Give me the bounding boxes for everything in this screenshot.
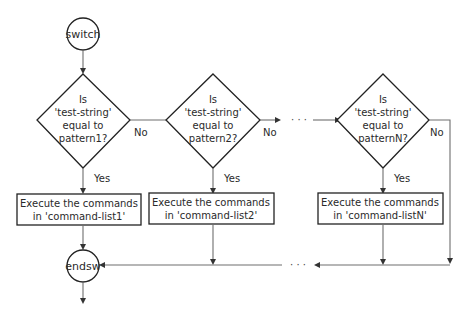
arrowhead-icon	[380, 259, 386, 265]
decision-n-line-1: Is	[379, 94, 387, 105]
arrowhead-icon	[447, 258, 453, 264]
start-node-switch: switch	[65, 18, 100, 50]
action-1-line-1: Execute the commands	[20, 198, 138, 209]
decision-n: Is 'test-string' equal to patternN?	[337, 74, 429, 168]
connector-decisionN-no	[429, 120, 450, 260]
decision-n-line-4: patternN?	[358, 133, 408, 144]
arrowhead-icon	[314, 262, 320, 268]
arrowhead-icon	[275, 117, 281, 123]
decision-2-line-4: pattern2?	[189, 133, 237, 144]
decision-n-line-2: 'test-string'	[354, 107, 411, 118]
decision-2-line-3: equal to	[193, 120, 234, 131]
action-2-line-1: Execute the commands	[152, 197, 270, 208]
action-1: Execute the commands in 'command-list1'	[17, 194, 141, 225]
arrowhead-icon	[80, 298, 86, 304]
decision-n-no-label: No	[430, 127, 444, 138]
end-label: endsw	[65, 260, 100, 273]
arrowhead-icon	[210, 259, 216, 265]
decision-2-line-2: 'test-string'	[184, 107, 241, 118]
action-1-line-2: in 'command-list1'	[33, 211, 125, 222]
arrowhead-icon	[80, 244, 86, 250]
action-2-line-2: in 'command-list2'	[165, 210, 257, 221]
decision-2-no-label: No	[263, 127, 277, 138]
action-2: Execute the commands in 'command-list2'	[149, 193, 274, 224]
decision-2-line-1: Is	[209, 94, 217, 105]
decision-1-line-1: Is	[79, 94, 87, 105]
action-n-line-2: in 'command-listN'	[333, 210, 426, 221]
arrowhead-icon	[80, 188, 86, 194]
ellipsis-top: · · ·	[291, 114, 307, 125]
action-n: Execute the commands in 'command-listN'	[318, 193, 443, 224]
decision-1-line-3: equal to	[63, 120, 104, 131]
decision-n-yes-label: Yes	[393, 173, 410, 184]
decision-2: Is 'test-string' equal to pattern2?	[166, 74, 260, 168]
decision-1-line-4: pattern1?	[59, 133, 107, 144]
decision-1-no-label: No	[134, 127, 148, 138]
decision-1-yes-label: Yes	[93, 173, 110, 184]
end-node-endsw: endsw	[65, 250, 100, 282]
ellipsis-bottom: · · ·	[290, 259, 306, 270]
decision-1: Is 'test-string' equal to pattern1?	[37, 74, 130, 168]
action-n-line-1: Execute the commands	[321, 197, 439, 208]
decision-n-line-3: equal to	[363, 120, 404, 131]
decision-1-line-2: 'test-string'	[54, 107, 111, 118]
decision-2-yes-label: Yes	[223, 173, 240, 184]
flowchart-canvas: switch Is 'test-string' equal to pattern…	[0, 0, 466, 315]
start-label: switch	[65, 28, 100, 41]
